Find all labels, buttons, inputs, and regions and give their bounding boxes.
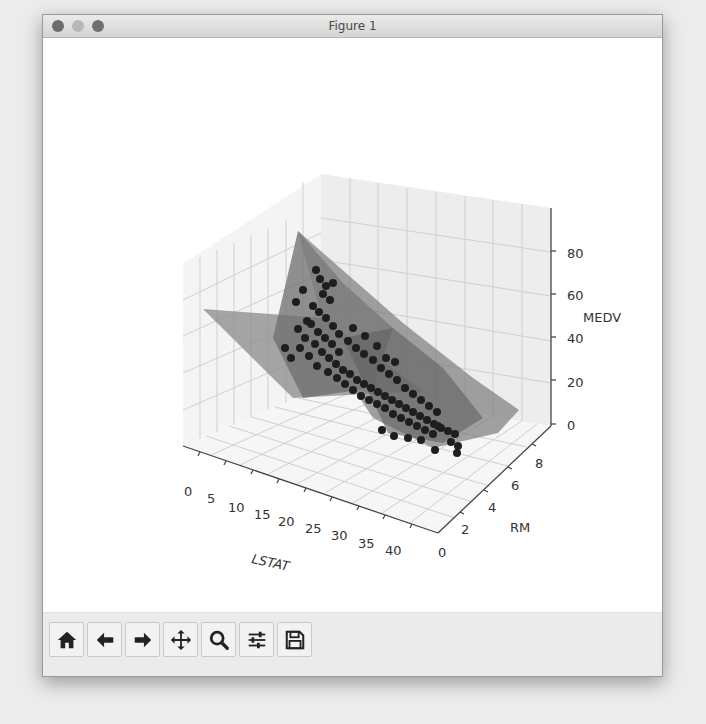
home-icon	[56, 629, 78, 651]
lstat-tick: 35	[358, 536, 375, 551]
rm-tick: 0	[438, 545, 446, 560]
medv-tick: 60	[567, 288, 584, 303]
forward-button[interactable]	[125, 622, 160, 657]
arrow-left-icon	[94, 629, 116, 651]
back-button[interactable]	[87, 622, 122, 657]
lstat-tick: 10	[228, 500, 245, 515]
sliders-icon	[246, 629, 268, 651]
rm-tick: 2	[461, 522, 469, 537]
medv-tick: 20	[567, 375, 584, 390]
lstat-tick: 20	[278, 514, 295, 529]
3d-plot[interactable]: 0 5 10 15 20 25 30 35 40 0 2 4 6 8 0 20 …	[43, 38, 662, 612]
lstat-tick: 30	[331, 528, 348, 543]
figure-window: Figure 1	[42, 14, 663, 677]
medv-tick: 40	[567, 331, 584, 346]
rm-tick: 8	[535, 456, 543, 471]
lstat-tick: 15	[254, 507, 271, 522]
rm-tick: 4	[488, 500, 496, 515]
home-button[interactable]	[49, 622, 84, 657]
lstat-tick: 25	[305, 521, 322, 536]
arrow-right-icon	[132, 629, 154, 651]
move-icon	[170, 629, 192, 651]
lstat-tick: 0	[184, 484, 192, 499]
configure-subplots-button[interactable]	[239, 622, 274, 657]
lstat-axis-label: LSTAT	[250, 551, 291, 574]
title-bar[interactable]: Figure 1	[43, 15, 662, 38]
rm-axis-label: RM	[510, 520, 530, 535]
lstat-tick: 5	[207, 491, 215, 506]
lstat-tick: 40	[385, 543, 402, 558]
magnifier-icon	[208, 629, 230, 651]
pan-button[interactable]	[163, 622, 198, 657]
rm-tick: 6	[511, 478, 519, 493]
navigation-toolbar	[43, 612, 662, 677]
medv-tick: 0	[567, 418, 575, 433]
floppy-disk-icon	[284, 629, 306, 651]
medv-axis-label: MEDV	[583, 310, 621, 325]
zoom-button[interactable]	[201, 622, 236, 657]
window-title: Figure 1	[43, 19, 662, 33]
plot-canvas[interactable]: 0 5 10 15 20 25 30 35 40 0 2 4 6 8 0 20 …	[43, 38, 662, 612]
medv-tick: 80	[567, 246, 584, 261]
save-button[interactable]	[277, 622, 312, 657]
